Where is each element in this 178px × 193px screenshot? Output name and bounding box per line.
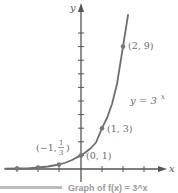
x-axis-arrow-icon [158, 166, 167, 172]
label-neg1-denominator: 3 [59, 149, 63, 157]
point-neg2 [36, 165, 41, 170]
point-neg1 [57, 162, 62, 167]
label-neg1-prefix: (−1, [36, 142, 57, 153]
label-neg1-suffix: ) [66, 142, 70, 153]
function-label: y = 3 x [129, 93, 165, 106]
figure-caption: Graph of f(x) = 3^x [0, 183, 178, 193]
x-axis-label: x [169, 163, 175, 174]
label-point-0-1: (0, 1) [86, 150, 112, 161]
label-point-neg1-third: (−1, 1 3 ) [36, 139, 70, 157]
exponential-graph: x y (2, 9) (1, 3) (0, 1) (−1, [0, 0, 178, 193]
point-2 [121, 44, 126, 49]
caption-text: Graph of f(x) = 3^x [68, 183, 148, 193]
point-1 [100, 126, 105, 131]
function-label-base: y = 3 [129, 95, 157, 106]
caption-figure-marker [0, 186, 62, 189]
point-neg3 [15, 166, 20, 171]
y-axis-label: y [69, 2, 76, 13]
label-point-1-3: (1, 3) [107, 123, 133, 134]
label-point-2-9: (2, 9) [128, 40, 154, 51]
label-neg1-numerator: 1 [59, 139, 63, 147]
function-label-exponent: x [161, 93, 165, 101]
point-0 [79, 153, 84, 158]
y-axis-arrow-icon [78, 3, 84, 12]
